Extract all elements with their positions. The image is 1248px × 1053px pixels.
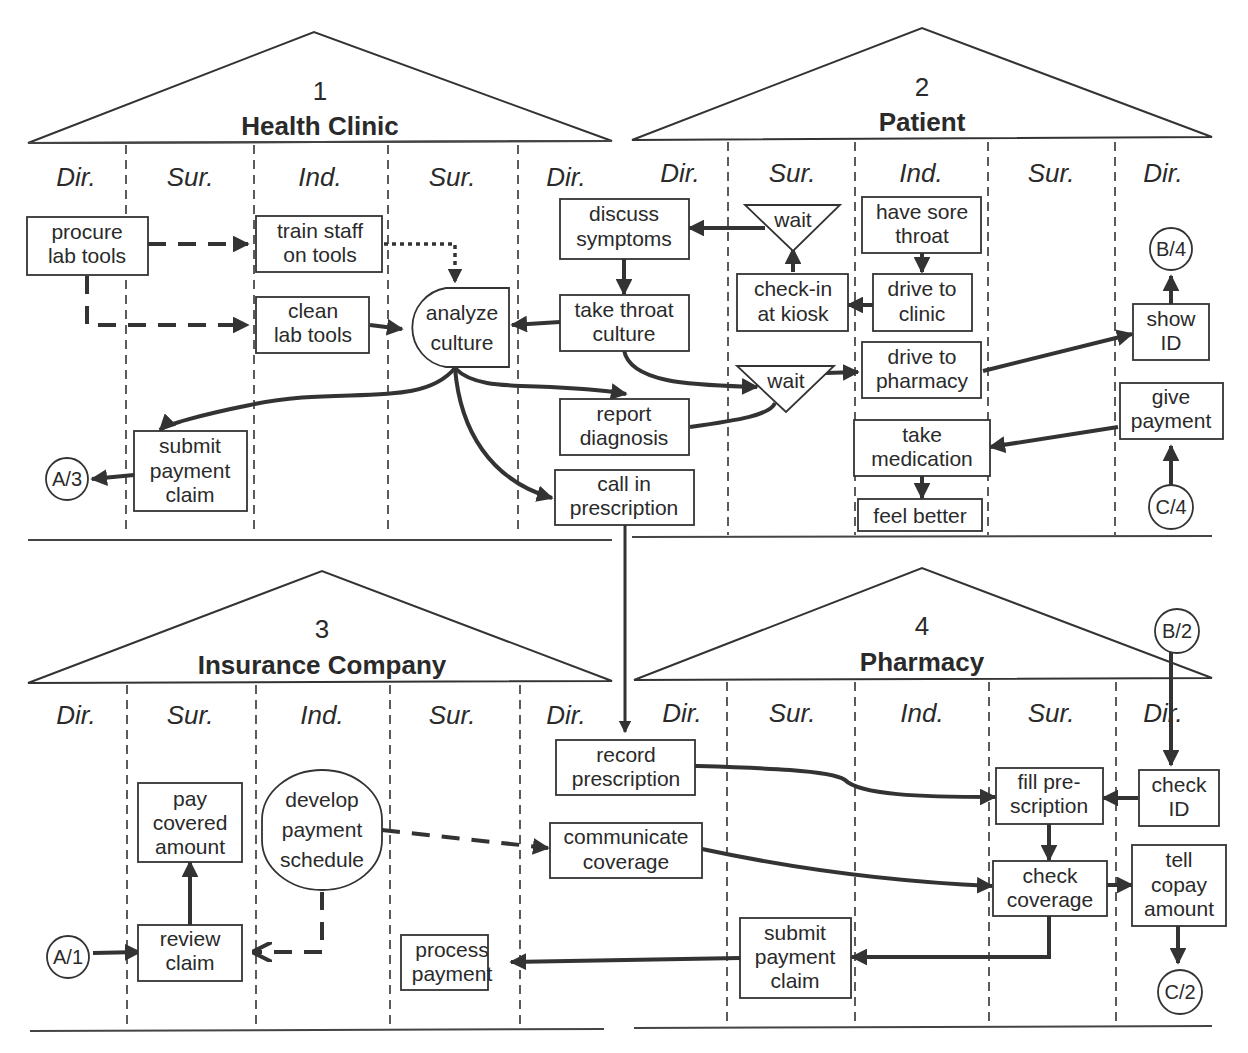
node-label: claim [165, 951, 214, 974]
node-label: throat [895, 224, 949, 247]
node-tell-copay-amount: tell copay amount [1132, 845, 1226, 926]
org-number: 3 [315, 614, 329, 644]
node-label: covered [153, 811, 228, 834]
node-label: pay [173, 787, 207, 810]
column-label-dir: Dir. [1143, 158, 1182, 188]
node-label: coverage [583, 850, 669, 873]
node-label: pharmacy [876, 369, 969, 392]
arrow-drive-pharmacy-to-show-id [983, 334, 1132, 371]
node-label: call in [597, 472, 651, 495]
column-label-dir: Dir. [660, 158, 699, 188]
node-label: drive to [888, 345, 957, 368]
node-label: ID [1169, 797, 1190, 820]
node-train-staff-on-tools: train staff on tools [256, 216, 382, 272]
node-communicate-coverage: communicate coverage [550, 823, 702, 878]
node-label: analyze [426, 301, 498, 324]
org-number: 4 [915, 611, 929, 641]
node-label: scription [1010, 794, 1088, 817]
service-system-diagram: 1 Health Clinic Dir. Sur. Ind. Sur. Dir.… [0, 0, 1248, 1053]
node-clean-lab-tools: clean lab tools [256, 297, 369, 353]
arrow-develop-to-review [254, 892, 322, 952]
node-label: payment [150, 459, 231, 482]
column-label-sur: Sur. [429, 162, 476, 192]
node-label: tell [1166, 848, 1193, 871]
arrow-clean-to-analyze [370, 325, 402, 329]
node-develop-payment-schedule: develop payment schedule [262, 770, 382, 890]
arrow-train-to-analyze [384, 244, 455, 282]
node-discuss-symptoms: discuss symptoms [560, 199, 689, 259]
node-drive-to-pharmacy: drive to pharmacy [862, 342, 981, 398]
org-number: 2 [915, 72, 929, 102]
node-label: amount [1144, 897, 1214, 920]
node-feel-better: feel better [858, 499, 982, 531]
node-label: claim [770, 969, 819, 992]
node-submit-payment-claim: submit payment claim [134, 431, 247, 511]
org-baseline [632, 536, 1212, 537]
connector-label: A/3 [52, 468, 82, 490]
node-label: develop [285, 788, 359, 811]
node-label: culture [430, 331, 493, 354]
column-label-dir: Dir. [546, 700, 585, 730]
column-label-dir: Dir. [1143, 698, 1182, 728]
node-give-payment: give payment [1120, 383, 1223, 439]
column-label-sur: Sur. [167, 700, 214, 730]
node-label: discuss [589, 202, 659, 225]
column-label-sur: Sur. [769, 158, 816, 188]
connector-c4: C/4 [1149, 485, 1193, 529]
org-title: Insurance Company [198, 650, 447, 680]
node-check-id: check ID [1139, 770, 1219, 826]
node-label: procure [51, 220, 122, 243]
node-label: check [1152, 773, 1207, 796]
node-review-claim: review claim [138, 925, 242, 981]
node-label: drive to [888, 277, 957, 300]
arrow-submit-claim-to-process-payment [511, 958, 740, 962]
node-report-diagnosis: report diagnosis [560, 399, 689, 455]
column-label-ind: Ind. [899, 158, 942, 188]
node-label: wait [766, 369, 805, 392]
node-check-in-at-kiosk: check-in at kiosk [737, 274, 848, 331]
connector-label: A/1 [53, 946, 83, 968]
node-label: copay [1151, 873, 1208, 896]
column-label-ind: Ind. [900, 698, 943, 728]
node-label: clean [288, 299, 338, 322]
node-label: clinic [899, 302, 946, 325]
arrow-wait-to-drive-pharmacy [826, 372, 858, 373]
connector-label: C/2 [1164, 981, 1195, 1003]
node-call-in-prescription: call in prescription [555, 470, 694, 525]
node-label: submit [159, 434, 221, 457]
node-label: have sore [876, 200, 968, 223]
connector-label: B/2 [1162, 620, 1192, 642]
node-label: check-in [754, 277, 832, 300]
node-procure-lab-tools: procure lab tools [27, 217, 148, 275]
node-label: record [596, 743, 656, 766]
node-label: claim [165, 483, 214, 506]
column-label-sur: Sur. [769, 698, 816, 728]
arrow-submit-claim-to-a3 [92, 475, 134, 479]
column-label-dir: Dir. [56, 700, 95, 730]
node-check-coverage: check coverage [993, 861, 1107, 916]
node-label: communicate [564, 825, 689, 848]
column-label-ind: Ind. [300, 700, 343, 730]
org-title: Pharmacy [860, 647, 985, 677]
node-label: diagnosis [580, 426, 669, 449]
node-label: coverage [1007, 888, 1093, 911]
node-process-payment: process payment [401, 935, 492, 990]
node-have-sore-throat: have sore throat [862, 197, 981, 253]
column-label-dir: Dir. [662, 698, 701, 728]
arrow-procure-to-clean [87, 276, 248, 325]
node-label: prescription [570, 496, 679, 519]
node-label: feel better [873, 504, 966, 527]
connector-b4: B/4 [1150, 228, 1192, 270]
node-label: on tools [283, 243, 357, 266]
node-label: lab tools [48, 244, 126, 267]
arrow-report-to-wait [690, 403, 775, 427]
node-label: wait [773, 208, 812, 231]
node-label: process [415, 938, 489, 961]
node-label: report [597, 402, 652, 425]
node-label: train staff [277, 219, 363, 242]
node-take-throat-culture: take throat culture [560, 295, 689, 351]
node-label: medication [871, 447, 973, 470]
arrow-give-payment-to-medication [990, 427, 1118, 447]
node-label: payment [282, 818, 363, 841]
node-label: ID [1161, 331, 1182, 354]
